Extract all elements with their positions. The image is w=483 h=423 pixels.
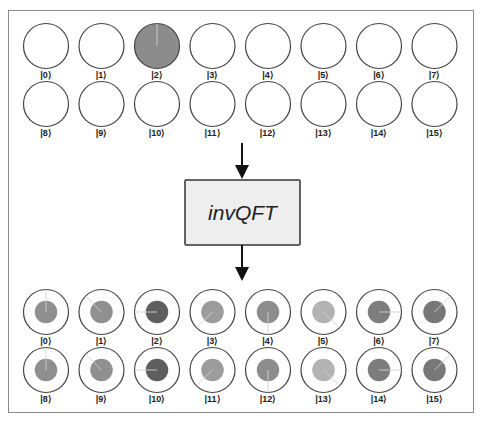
amplitude-circle: [79, 24, 124, 69]
arrow-into-gate: [235, 143, 249, 179]
output-state-15: |15⟩: [412, 348, 457, 404]
output-state-1: |1⟩: [79, 290, 124, 346]
ket-label: |7⟩: [429, 70, 441, 80]
ket-label: |10⟩: [149, 394, 166, 404]
output-state-9: |9⟩: [79, 348, 124, 404]
ket-label: |14⟩: [371, 128, 388, 138]
input-state-12: |12⟩: [246, 82, 291, 138]
ket-label: |6⟩: [373, 70, 385, 80]
input-state-11: |11⟩: [190, 82, 235, 138]
ket-label: |11⟩: [204, 128, 220, 138]
arrow-head-icon: [235, 267, 249, 281]
input-state-10: |10⟩: [135, 82, 180, 138]
input-state-9: |9⟩: [79, 82, 124, 138]
input-state-0: |0⟩: [24, 24, 69, 80]
amplitude-circle: [24, 82, 69, 127]
output-state-12: |12⟩: [246, 348, 291, 404]
amplitude-circle: [190, 24, 235, 69]
ket-label: |1⟩: [96, 70, 108, 80]
ket-label: |5⟩: [318, 70, 330, 80]
ket-label: |2⟩: [151, 336, 163, 346]
amplitude-circle: [24, 24, 69, 69]
ket-label: |6⟩: [373, 336, 385, 346]
amplitude-circle: [190, 82, 235, 127]
ket-label: |11⟩: [204, 394, 220, 404]
output-state-7: |7⟩: [412, 290, 457, 346]
input-state-5: |5⟩: [301, 24, 346, 80]
ket-label: |3⟩: [207, 336, 219, 346]
input-state-14: |14⟩: [357, 82, 402, 138]
ket-label: |15⟩: [426, 394, 443, 404]
input-state-7: |7⟩: [412, 24, 457, 80]
input-state-13: |13⟩: [301, 82, 346, 138]
ket-label: |9⟩: [96, 128, 108, 138]
output-state-5: |5⟩: [301, 290, 346, 346]
output-state-6: |6⟩: [357, 290, 402, 346]
gate-label: invQFT: [208, 201, 279, 224]
ket-label: |13⟩: [315, 128, 332, 138]
amplitude-circle: [412, 24, 457, 69]
ket-label: |1⟩: [96, 336, 108, 346]
invqft-gate: invQFT: [185, 180, 300, 245]
output-state-0: |0⟩: [24, 290, 69, 346]
ket-label: |7⟩: [429, 336, 441, 346]
output-state-4: |4⟩: [246, 290, 291, 346]
amplitude-circle: [246, 24, 291, 69]
quantum-state-diagram: |0⟩|1⟩|2⟩|3⟩|4⟩|5⟩|6⟩|7⟩|8⟩|9⟩|10⟩|11⟩|1…: [0, 0, 483, 423]
input-state-15: |15⟩: [412, 82, 457, 138]
ket-label: |3⟩: [207, 70, 219, 80]
input-state-3: |3⟩: [190, 24, 235, 80]
amplitude-circle: [246, 82, 291, 127]
amplitude-circle: [357, 24, 402, 69]
input-state-1: |1⟩: [79, 24, 124, 80]
input-state-2: |2⟩: [135, 24, 180, 80]
ket-label: |15⟩: [426, 128, 443, 138]
ket-label: |0⟩: [40, 336, 52, 346]
amplitude-circle: [412, 82, 457, 127]
ket-label: |5⟩: [318, 336, 330, 346]
ket-label: |4⟩: [262, 336, 274, 346]
input-state-8: |8⟩: [24, 82, 69, 138]
output-state-10: |10⟩: [135, 348, 180, 404]
amplitude-circle: [135, 82, 180, 127]
ket-label: |12⟩: [260, 394, 277, 404]
amplitude-circle: [79, 82, 124, 127]
ket-label: |14⟩: [371, 394, 388, 404]
ket-label: |0⟩: [40, 70, 52, 80]
output-register-grid: |0⟩|1⟩|2⟩|3⟩|4⟩|5⟩|6⟩|7⟩|8⟩|9⟩|10⟩|11⟩|1…: [24, 290, 458, 404]
ket-label: |13⟩: [315, 394, 332, 404]
output-state-3: |3⟩: [190, 290, 235, 346]
ket-label: |2⟩: [151, 70, 163, 80]
input-state-6: |6⟩: [357, 24, 402, 80]
input-register-grid: |0⟩|1⟩|2⟩|3⟩|4⟩|5⟩|6⟩|7⟩|8⟩|9⟩|10⟩|11⟩|1…: [24, 24, 458, 138]
ket-label: |10⟩: [149, 128, 166, 138]
output-state-2: |2⟩: [135, 290, 180, 346]
ket-label: |9⟩: [96, 394, 108, 404]
ket-label: |4⟩: [262, 70, 274, 80]
output-state-11: |11⟩: [190, 348, 235, 404]
ket-label: |8⟩: [40, 394, 52, 404]
arrow-head-icon: [235, 165, 249, 179]
output-state-8: |8⟩: [24, 348, 69, 404]
input-state-4: |4⟩: [246, 24, 291, 80]
amplitude-circle: [357, 82, 402, 127]
amplitude-circle: [301, 82, 346, 127]
arrow-out-of-gate: [235, 245, 249, 281]
output-state-13: |13⟩: [301, 348, 346, 404]
ket-label: |12⟩: [260, 128, 277, 138]
output-state-14: |14⟩: [357, 348, 402, 404]
ket-label: |8⟩: [40, 128, 52, 138]
amplitude-circle: [301, 24, 346, 69]
